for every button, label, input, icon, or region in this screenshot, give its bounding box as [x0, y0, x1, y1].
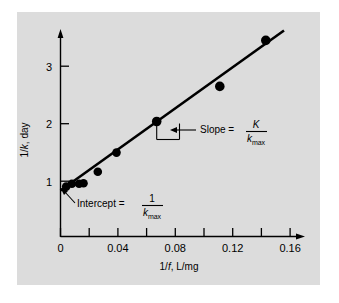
data-point — [215, 82, 225, 92]
regression-fit-line — [61, 31, 285, 191]
slope-leader-arrowhead — [170, 127, 177, 133]
y-axis-arrowhead — [58, 29, 64, 38]
y-axis-ticks — [61, 66, 70, 181]
slope-annotation-label: Slope = — [200, 124, 234, 135]
slope-fraction-denominator: kmax — [247, 133, 266, 146]
intercept-annotation-label: Intercept = — [77, 198, 125, 209]
intercept-fraction: 1 kmax — [142, 193, 163, 220]
y-axis-title: 1/k, day — [19, 122, 30, 157]
intercept-denominator-subscript: max — [148, 213, 162, 220]
slope-denominator-subscript: max — [252, 139, 266, 146]
intercept-fraction-denominator: kmax — [143, 207, 162, 220]
x-axis-ticks — [61, 228, 291, 237]
y-tick-label-1: 1 — [46, 176, 52, 188]
scatter-plot: 0 0.04 0.08 0.12 0.16 1 2 3 1/f, L/mg 1/… — [0, 0, 339, 303]
y-tick-label-3: 3 — [46, 61, 52, 73]
data-point — [261, 36, 271, 46]
y-axis-title-suffix: , day — [19, 122, 30, 144]
slope-leader-line — [170, 127, 196, 133]
x-axis-title-prefix: 1/ — [160, 261, 169, 272]
x-axis-title-suffix: , L/mg — [171, 261, 199, 272]
intercept-fraction-numerator: 1 — [149, 193, 155, 204]
intercept-leader-shaft — [65, 192, 75, 203]
x-tick-label-0: 0 — [57, 242, 63, 254]
data-point — [112, 148, 121, 157]
x-tick-label-2: 0.08 — [165, 242, 186, 254]
y-axis-tick-labels: 1 2 3 — [46, 61, 52, 188]
y-axis-title-prefix: 1/ — [19, 149, 30, 158]
x-tick-label-3: 0.12 — [222, 242, 243, 254]
data-point — [94, 167, 103, 176]
x-axis-tick-labels: 0 0.04 0.08 0.12 0.16 — [57, 242, 300, 254]
slope-fraction-numerator: K — [253, 119, 261, 130]
y-tick-label-2: 2 — [46, 118, 52, 130]
x-tick-label-4: 0.16 — [279, 242, 300, 254]
slope-fraction: K kmax — [246, 119, 267, 146]
figure-container: 0 0.04 0.08 0.12 0.16 1 2 3 1/f, L/mg 1/… — [0, 0, 339, 303]
x-axis-arrowhead — [296, 234, 305, 240]
x-axis-title: 1/f, L/mg — [160, 261, 199, 272]
x-tick-label-1: 0.04 — [107, 242, 128, 254]
data-point — [79, 179, 88, 188]
